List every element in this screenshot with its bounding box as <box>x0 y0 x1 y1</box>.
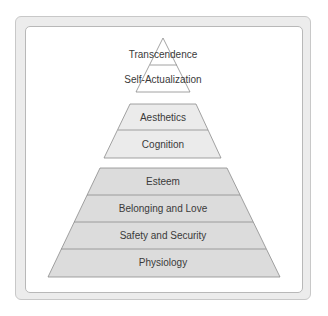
pyramid-group-top: Transcendence Self-Actualization <box>124 38 201 92</box>
level-safety-and-security: Safety and Security <box>120 230 207 241</box>
level-self-actualization: Self-Actualization <box>124 74 201 85</box>
level-aesthetics: Aesthetics <box>140 112 186 123</box>
level-transcendence: Transcendence <box>129 49 198 60</box>
level-belonging-and-love: Belonging and Love <box>119 203 208 214</box>
level-cognition: Cognition <box>142 139 184 150</box>
pyramid-group-middle: Aesthetics Cognition <box>104 104 221 158</box>
level-esteem: Esteem <box>146 176 180 187</box>
pyramid-diagram: Transcendence Self-Actualization Aesthet… <box>0 0 328 316</box>
pyramid-group-bottom: Esteem Belonging and Love Safety and Sec… <box>48 168 280 277</box>
level-physiology: Physiology <box>139 257 187 268</box>
